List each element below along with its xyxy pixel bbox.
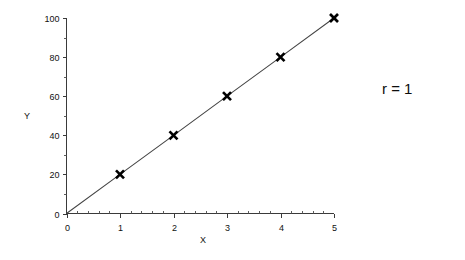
- x-tick-label: 0: [65, 223, 70, 233]
- x-tick-label: 4: [279, 223, 284, 233]
- scatter-plot-canvas: 020406080100 012345 X Y r = 1: [0, 0, 465, 260]
- chart-figure: 020406080100 012345 X Y r = 1: [0, 0, 465, 260]
- x-axis-title: X: [200, 235, 206, 245]
- x-tick-label: 5: [332, 223, 337, 233]
- y-tick-label: 80: [49, 53, 59, 63]
- y-tick-label: 40: [49, 131, 59, 141]
- y-tick-label: 60: [49, 92, 59, 102]
- y-axis-title: Y: [24, 111, 30, 121]
- x-tick-label: 1: [118, 223, 123, 233]
- y-tick-label: 100: [44, 14, 59, 24]
- x-tick-label: 2: [172, 223, 177, 233]
- correlation-annotation: r = 1: [382, 80, 412, 97]
- x-tick-label: 3: [225, 223, 230, 233]
- plot-background: [0, 0, 465, 260]
- y-tick-label: 0: [54, 210, 59, 220]
- y-tick-label: 20: [49, 170, 59, 180]
